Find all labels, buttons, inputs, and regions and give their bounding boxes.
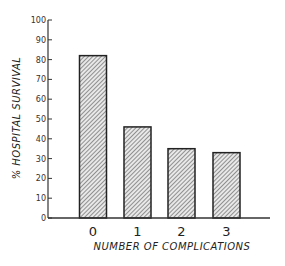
y-tick-label: 30 — [36, 155, 46, 164]
y-axis: 0102030405060708090100 — [31, 16, 52, 223]
y-tick-label: 10 — [36, 194, 46, 203]
x-tick-label: 3 — [222, 224, 230, 239]
bar-3 — [213, 153, 240, 218]
y-tick-label: 20 — [36, 174, 46, 183]
x-axis: 0123 — [48, 218, 270, 239]
x-tick-label: 2 — [177, 224, 185, 239]
y-tick-label: 90 — [36, 36, 46, 45]
y-tick-label: 100 — [31, 16, 46, 25]
x-tick-label: 1 — [133, 224, 141, 239]
y-tick-label: 0 — [41, 214, 46, 223]
y-axis-title: % HOSPITAL SURVIVAL — [11, 57, 22, 180]
bar-2 — [168, 149, 195, 218]
bars — [80, 56, 241, 218]
x-axis-title: NUMBER OF COMPLICATIONS — [94, 241, 251, 252]
y-tick-label: 70 — [36, 75, 46, 84]
y-tick-label: 50 — [36, 115, 46, 124]
y-tick-label: 40 — [36, 135, 46, 144]
x-tick-label: 0 — [89, 224, 97, 239]
y-tick-label: 80 — [36, 56, 46, 65]
bar-chart: 0102030405060708090100 0123 NUMBER OF CO… — [0, 0, 285, 266]
bar-1 — [124, 127, 151, 218]
y-tick-label: 60 — [36, 95, 46, 104]
bar-0 — [80, 56, 107, 218]
